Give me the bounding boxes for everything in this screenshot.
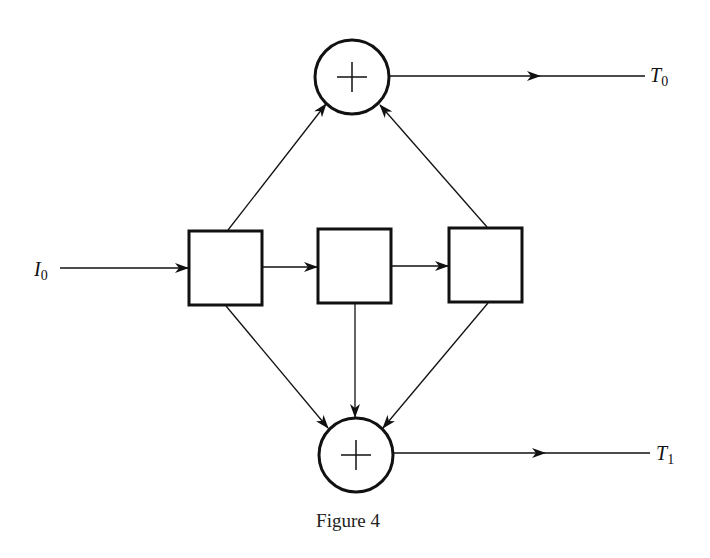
adder-top — [315, 40, 389, 114]
arrow-b1-sumbottom — [226, 306, 328, 428]
block-2 — [318, 229, 391, 303]
connections — [60, 76, 650, 453]
arrow-b1-sumtop — [228, 104, 326, 230]
arrow-b3-sumbottom — [383, 303, 488, 428]
adder-bottom — [319, 418, 393, 492]
block-3 — [449, 228, 522, 302]
output-label-t1: T1 — [656, 442, 674, 467]
block-1 — [189, 231, 262, 305]
figure-caption: Figure 4 — [316, 510, 380, 531]
input-label: I0 — [33, 258, 48, 283]
arrow-b3-sumtop — [380, 105, 487, 227]
block-diagram: I0 T0 T1 Figure 4 — [0, 0, 710, 558]
output-label-t0: T0 — [650, 64, 668, 89]
